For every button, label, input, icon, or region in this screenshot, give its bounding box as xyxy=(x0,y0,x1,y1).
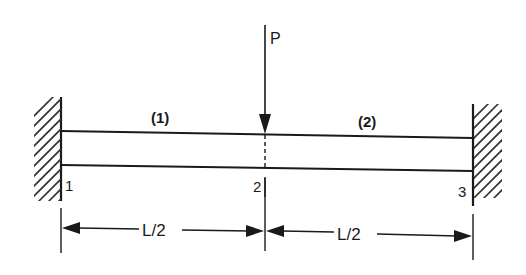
right-fixed-support xyxy=(470,86,506,232)
beam-top-edge xyxy=(61,131,473,138)
right-wall-hatch-icon xyxy=(470,86,506,232)
dimension-span-2: L/2 xyxy=(266,225,472,244)
left-fixed-support xyxy=(30,86,64,230)
point-load: P xyxy=(259,25,281,134)
arrow-left-icon xyxy=(266,225,284,237)
load-label: P xyxy=(270,30,281,47)
left-wall-hatch-icon xyxy=(30,86,64,230)
load-arrow-down-icon xyxy=(259,114,271,134)
arrow-right-icon xyxy=(454,230,472,242)
element-1-label: (1) xyxy=(151,109,169,126)
node-1-label: 1 xyxy=(65,177,73,194)
arrow-right-icon xyxy=(246,225,264,237)
beam-bottom-edge xyxy=(61,165,473,171)
dimension-label-span-1: L/2 xyxy=(142,221,166,240)
element-2-label: (2) xyxy=(358,113,376,130)
dimension-span-1: L/2 xyxy=(62,221,264,240)
node-3-label: 3 xyxy=(458,183,466,200)
dimension-label-span-2: L/2 xyxy=(337,225,361,244)
dimension-lines: L/2 L/2 xyxy=(61,178,473,260)
arrow-left-icon xyxy=(62,222,80,234)
beam-diagram: P (1) (2) 1 2 3 L/2 L/2 xyxy=(0,0,526,275)
beam xyxy=(61,131,473,171)
node-2-label: 2 xyxy=(253,178,261,195)
